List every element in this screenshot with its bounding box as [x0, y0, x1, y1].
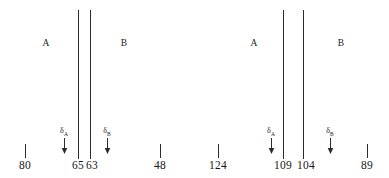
- boundary-line-63: [90, 10, 91, 159]
- axis-label-89: 89: [361, 159, 373, 172]
- axis-label-124: 124: [209, 159, 227, 172]
- axis-tick-89: [367, 144, 368, 158]
- boundary-line-104: [303, 10, 304, 159]
- region-label-a-right: A: [251, 38, 258, 49]
- down-arrow-icon: [327, 138, 334, 154]
- axis-tick-80: [25, 144, 26, 158]
- down-arrow-icon: [268, 138, 275, 154]
- axis-tick-124: [218, 144, 219, 158]
- delta-b-subscript-right: B: [330, 131, 334, 137]
- delta-a-label-left: δA: [60, 126, 68, 137]
- figure-canvas: A B δA δB 80 65 63 48 A B δA δB: [0, 0, 389, 178]
- axis-label-80: 80: [19, 159, 31, 172]
- delta-b-annotation-left: δB: [96, 126, 118, 154]
- delta-a-label-right: δA: [267, 126, 275, 137]
- axis-tick-48: [160, 144, 161, 158]
- delta-b-label-right: δB: [326, 126, 333, 137]
- delta-b-label-left: δB: [103, 126, 110, 137]
- delta-a-subscript-left: A: [64, 131, 68, 137]
- axis-label-104: 104: [297, 159, 315, 172]
- boundary-line-65: [78, 10, 79, 159]
- region-label-b-left: B: [121, 38, 127, 49]
- region-label-b-right: B: [338, 38, 344, 49]
- down-arrow-icon: [61, 138, 68, 154]
- delta-a-annotation-left: δA: [53, 126, 75, 154]
- delta-b-annotation-right: δB: [319, 126, 341, 154]
- boundary-line-109: [283, 10, 284, 159]
- delta-a-subscript-right: A: [271, 131, 275, 137]
- axis-label-48: 48: [154, 159, 166, 172]
- axis-label-109: 109: [274, 159, 292, 172]
- axis-label-63: 63: [86, 159, 98, 172]
- down-arrow-icon: [104, 138, 111, 154]
- delta-b-subscript-left: B: [107, 131, 111, 137]
- axis-label-65: 65: [72, 159, 84, 172]
- region-label-a-left: A: [43, 38, 50, 49]
- delta-a-annotation-right: δA: [260, 126, 282, 154]
